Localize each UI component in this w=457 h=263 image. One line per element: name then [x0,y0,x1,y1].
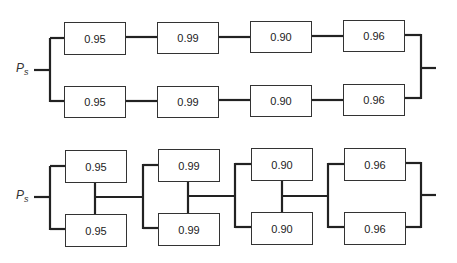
input-label-ps: Ps [16,188,29,204]
component-box: 0.96 [343,20,405,52]
component-box: 0.99 [158,149,220,182]
component-box: 0.90 [250,85,312,117]
component-box: 0.99 [157,22,219,54]
component-box: 0.95 [64,22,126,55]
component-box: 0.96 [344,148,406,181]
component-box: 0.90 [251,212,313,245]
input-label-ps: Ps [16,61,29,77]
component-box: 0.95 [65,150,127,183]
component-box: 0.96 [344,212,406,245]
component-box: 0.90 [251,148,313,181]
component-box: 0.90 [250,21,312,53]
component-box: 0.95 [65,214,127,247]
component-box: 0.99 [158,213,220,246]
component-box: 0.95 [64,86,126,118]
component-box: 0.99 [157,86,219,118]
component-box: 0.96 [343,84,405,116]
